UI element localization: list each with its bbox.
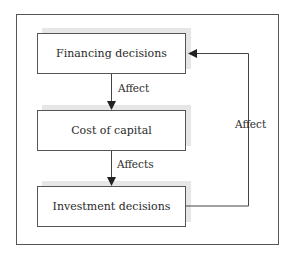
- arrowhead-down-icon: [107, 101, 116, 110]
- arrowhead-left-icon: [188, 49, 197, 58]
- edge-label-affects: Affects: [117, 158, 154, 170]
- edge-label-affect: Affect: [118, 82, 149, 94]
- edge-label-feedback-affect: Affect: [235, 118, 266, 130]
- arrowhead-down-icon: [107, 177, 116, 186]
